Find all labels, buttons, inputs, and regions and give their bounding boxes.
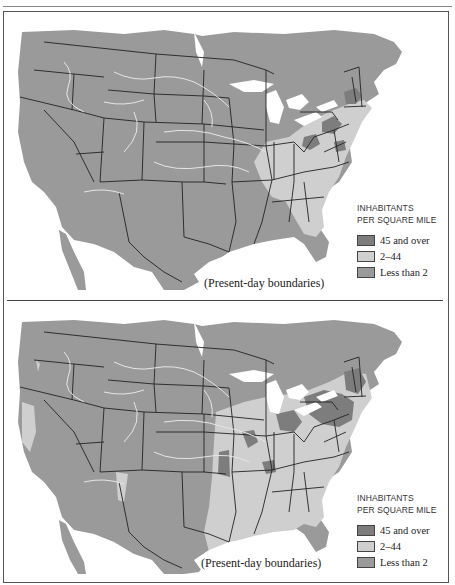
swatch-medium-density (357, 541, 375, 552)
legend: INHABITANTS PER SQUARE MILE 45 and over … (357, 492, 448, 570)
land-high-density (218, 450, 230, 477)
panel-divider (7, 300, 443, 301)
legend-item-high: 45 and over (357, 522, 448, 538)
legend-label: 2–44 (380, 541, 401, 552)
legend-item-high: 45 and over (357, 232, 448, 248)
swatch-low-density (357, 557, 375, 568)
map-panel-top: INHABITANTS PER SQUARE MILE 45 and over … (4, 12, 448, 300)
legend-item-medium: 2–44 (357, 248, 448, 264)
legend-title-line2: PER SQUARE MILE (357, 214, 448, 226)
figure-frame: INHABITANTS PER SQUARE MILE 45 and over … (3, 11, 449, 583)
map-caption: (Present-day boundaries) (201, 556, 321, 571)
swatch-medium-density (357, 251, 375, 262)
legend-item-low: Less than 2 (357, 554, 448, 570)
legend-label: 45 and over (380, 235, 430, 246)
legend: INHABITANTS PER SQUARE MILE 45 and over … (357, 202, 448, 280)
legend-label: 45 and over (380, 525, 430, 536)
legend-item-low: Less than 2 (357, 264, 448, 280)
legend-label: 2–44 (380, 251, 401, 262)
map-caption: (Present-day boundaries) (204, 276, 324, 291)
swatch-high-density (357, 235, 375, 246)
legend-title-line2: PER SQUARE MILE (357, 504, 448, 516)
legend-label: Less than 2 (380, 267, 428, 278)
legend-title-line1: INHABITANTS (357, 202, 448, 214)
legend-label: Less than 2 (380, 557, 428, 568)
legend-item-medium: 2–44 (357, 538, 448, 554)
top-rule (3, 6, 452, 7)
map-panel-bottom: INHABITANTS PER SQUARE MILE 45 and over … (4, 302, 448, 582)
legend-title-line1: INHABITANTS (357, 492, 448, 504)
swatch-low-density (357, 267, 375, 278)
swatch-high-density (357, 525, 375, 536)
